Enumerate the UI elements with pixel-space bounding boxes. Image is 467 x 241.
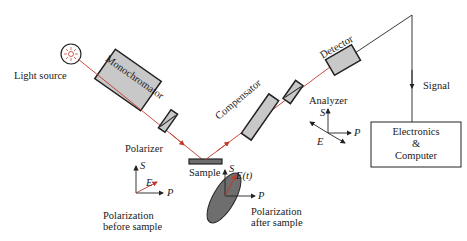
pol-after-line1: Polarization xyxy=(251,206,302,217)
electronics-label-line1: Electronics xyxy=(371,126,461,137)
compensator-element xyxy=(241,94,278,140)
light-source-icon xyxy=(61,44,81,64)
after-axis-p: P xyxy=(258,190,264,201)
analyzer-element xyxy=(283,80,303,103)
before-axis-p: P xyxy=(167,187,173,198)
signal-wire xyxy=(355,15,412,122)
polarizer-label: Polarizer xyxy=(125,143,163,154)
analyzer-axis-e: E xyxy=(317,136,323,147)
analyzer-axis-s: S xyxy=(320,107,325,118)
signal-label: Signal xyxy=(423,80,450,91)
analyzer-axis-p: P xyxy=(354,127,360,138)
ellipsometer-diagram xyxy=(0,0,467,241)
before-axis-e: E xyxy=(146,177,152,188)
pol-after-line2: after sample xyxy=(251,217,303,228)
after-axis-s: S xyxy=(229,163,234,174)
pol-before-line2: before sample xyxy=(103,221,162,232)
light-source-label: Light source xyxy=(14,70,67,81)
electronics-label-line3: Computer xyxy=(371,150,461,161)
pol-before-line1: Polarization xyxy=(103,210,154,221)
analyzer-label: Analyzer xyxy=(309,95,347,106)
polarizer-element xyxy=(158,110,177,133)
after-axis-et: E(t) xyxy=(236,170,252,181)
sample-label: Sample xyxy=(189,167,221,178)
electronics-label-line2: & xyxy=(371,138,461,149)
before-axis-s: S xyxy=(140,160,145,171)
